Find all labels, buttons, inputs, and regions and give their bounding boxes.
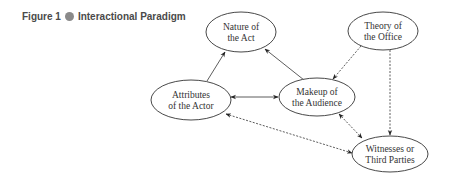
node-label: Makeup of bbox=[296, 87, 338, 97]
node-label: Attributes bbox=[172, 90, 210, 100]
node-makeup-of-the-audience: Makeup of the Audience bbox=[279, 78, 355, 116]
edge-makeup-to-nature bbox=[265, 49, 304, 80]
node-theory-of-the-office: Theory of the Office bbox=[348, 12, 418, 50]
node-label: the Audience bbox=[292, 98, 342, 108]
node-label: Nature of bbox=[223, 22, 260, 32]
node-witnesses-or-third-parties: Witnesses or Third Parties bbox=[352, 136, 428, 172]
edge-attributes-to-nature bbox=[207, 52, 225, 81]
node-nature-of-the-act: Nature of the Act bbox=[206, 12, 276, 52]
node-attributes-of-the-actor: Attributes of the Actor bbox=[151, 80, 231, 120]
node-label: Third Parties bbox=[365, 155, 415, 165]
node-label: of the Actor bbox=[168, 101, 214, 111]
interaction-diagram: Nature of the Act Theory of the Office A… bbox=[0, 0, 450, 178]
edge-makeup-witnesses bbox=[339, 114, 362, 138]
node-label: the Office bbox=[364, 32, 402, 42]
node-label: Witnesses or bbox=[366, 144, 415, 154]
node-label: Theory of bbox=[364, 21, 403, 31]
node-label: the Act bbox=[227, 33, 255, 43]
edge-attributes-witnesses bbox=[226, 114, 352, 153]
edge-theory-to-makeup bbox=[333, 46, 361, 79]
